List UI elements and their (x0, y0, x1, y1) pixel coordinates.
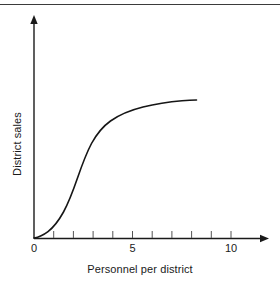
x-tick-label-5: 5 (129, 243, 135, 254)
x-tick-label-0: 0 (31, 243, 37, 254)
y-axis-arrowhead (30, 15, 37, 24)
x-tick-label-10: 10 (225, 243, 237, 254)
y-axis-title: District sales (11, 112, 23, 176)
x-axis-ticks (54, 231, 231, 238)
x-axis-title: Personnel per district (87, 263, 193, 275)
sales-response-curve (34, 100, 197, 238)
y-axis-group (30, 15, 37, 239)
x-axis-arrowhead (260, 235, 269, 242)
plot-area (0, 0, 280, 288)
chart-figure: 0 5 10 Personnel per district District s… (0, 0, 280, 288)
